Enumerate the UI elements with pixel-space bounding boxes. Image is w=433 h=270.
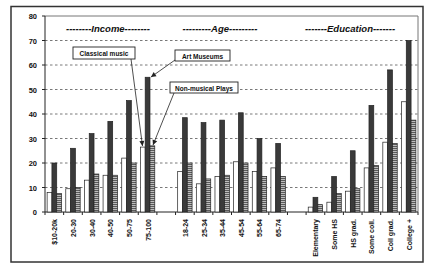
bar-chart: 01020304050607080 --------Income--------… (0, 0, 433, 270)
x-category-label: HS grad. (350, 219, 358, 248)
bar-white (66, 189, 71, 212)
y-tick-label: 60 (29, 61, 37, 70)
y-tick-label: 0 (33, 208, 37, 217)
x-category-label: $10-20k (51, 219, 59, 245)
x-category-label: 65-74 (275, 219, 282, 237)
bar-hatched (262, 176, 267, 212)
bar-hatched (150, 146, 155, 212)
bar-hatched (75, 188, 80, 213)
x-category-label: Coll grad. (387, 219, 395, 251)
bar-hatched (336, 194, 341, 212)
bar-hatched (281, 176, 286, 212)
y-tick-label: 50 (29, 86, 37, 95)
group-header: ---------Age--------- (183, 23, 258, 34)
bar-white (122, 158, 127, 212)
bar-dark (220, 120, 225, 212)
y-tick-label: 10 (29, 184, 37, 193)
bar-dark (89, 134, 94, 212)
bar-dark (201, 123, 206, 212)
x-category-label: Some HS (331, 219, 338, 250)
annotation-label: Classical music (80, 50, 129, 57)
bar-hatched (411, 120, 416, 212)
bar-hatched (374, 165, 379, 212)
bar-dark (276, 143, 281, 212)
y-tick-label: 30 (29, 135, 37, 144)
group-header: --------Income-------- (66, 23, 150, 34)
bar-white (103, 175, 108, 212)
bar-dark (369, 105, 374, 212)
bar-hatched (94, 174, 99, 212)
bar-white (271, 168, 276, 212)
x-category-label: 45-54 (238, 219, 245, 237)
bar-hatched (187, 163, 192, 212)
bar-dark (257, 139, 262, 213)
bar-dark (238, 113, 243, 212)
bar-white (178, 172, 183, 212)
bar-dark (145, 77, 150, 212)
x-category-label: 35-44 (219, 219, 226, 237)
bar-dark (127, 101, 132, 212)
bar-white (401, 102, 406, 212)
bar-white (327, 202, 332, 212)
annotation-label: Art Museums (182, 53, 224, 60)
bar-white (196, 184, 201, 212)
bar-dark (313, 197, 318, 212)
group-header: -------Education------- (305, 23, 395, 34)
bar-dark (350, 151, 355, 212)
bar-white (84, 180, 89, 212)
bar-white (215, 176, 220, 212)
bar-white (252, 172, 257, 212)
bar-white (47, 192, 52, 212)
x-category-label: 50-75 (126, 219, 133, 237)
bar-hatched (392, 143, 397, 212)
bar-hatched (113, 175, 118, 212)
x-category-label: 75-100 (145, 219, 152, 241)
bar-white (346, 191, 351, 212)
x-category-label: 25-34 (201, 219, 208, 237)
bar-hatched (225, 175, 230, 212)
bar-white (140, 147, 145, 212)
x-category-label: Elementary (312, 219, 320, 257)
x-category-label: College + (406, 219, 414, 250)
bar-hatched (57, 194, 62, 212)
group-headers: --------Income-----------------Age------… (66, 23, 395, 34)
bar-dark (182, 118, 187, 212)
bar-dark (406, 41, 411, 213)
bar-dark (71, 148, 76, 212)
bar-dark (52, 163, 57, 212)
bar-hatched (318, 205, 323, 212)
bar-hatched (131, 163, 136, 212)
bar-hatched (355, 189, 360, 212)
y-tick-label: 70 (29, 37, 37, 46)
bar-dark (332, 176, 337, 212)
annotation-label: Non-musical Plays (175, 85, 233, 93)
y-tick-label: 40 (29, 110, 37, 119)
bar-dark (108, 121, 113, 212)
bar-white (234, 162, 239, 212)
x-category-label: 55-64 (256, 219, 263, 237)
bar-white (364, 168, 369, 212)
x-category-label: 18-24 (182, 219, 189, 237)
x-category-label: 20-30 (70, 219, 77, 237)
y-tick-label: 80 (29, 12, 37, 21)
y-tick-label: 20 (29, 159, 37, 168)
bar-hatched (243, 163, 248, 212)
x-category-label: 40-50 (107, 219, 114, 237)
x-category-label: 30-40 (89, 219, 96, 237)
bar-white (308, 207, 313, 212)
x-category-label: Some coll. (368, 219, 375, 254)
bar-dark (388, 70, 393, 212)
bar-white (383, 142, 388, 212)
bar-hatched (206, 179, 211, 212)
